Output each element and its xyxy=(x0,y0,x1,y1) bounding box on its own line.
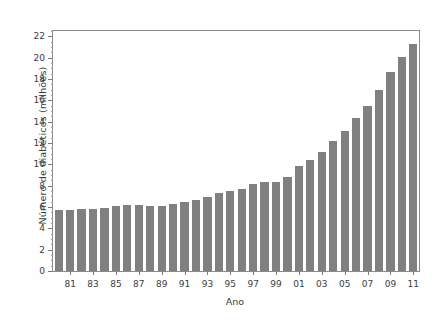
y-axis-minor-tick xyxy=(51,154,54,155)
bar xyxy=(295,166,303,271)
y-axis-minor-tick xyxy=(51,90,54,91)
y-axis-tick-label: 10 xyxy=(34,159,45,169)
bar xyxy=(341,131,349,271)
bar xyxy=(180,202,188,271)
y-axis-minor-tick xyxy=(51,74,54,75)
y-axis-minor-tick xyxy=(51,218,54,219)
y-axis-tick-label: 16 xyxy=(34,95,45,105)
x-axis-tick xyxy=(368,271,369,275)
y-axis-minor-tick xyxy=(51,111,54,112)
y-axis-minor-tick xyxy=(51,266,54,267)
x-axis-tick-label: 07 xyxy=(362,279,373,289)
x-axis-tick xyxy=(207,271,208,275)
bar xyxy=(100,208,108,271)
y-axis-tick-label: 20 xyxy=(34,53,45,63)
x-axis-tick-label: 81 xyxy=(64,279,75,289)
y-axis-tick-label: 8 xyxy=(39,181,45,191)
bar xyxy=(123,205,131,271)
y-axis-minor-tick xyxy=(51,175,54,176)
y-axis-tick-label: 18 xyxy=(34,74,45,84)
bar xyxy=(135,205,143,271)
x-axis-tick xyxy=(276,271,277,275)
x-axis-tick xyxy=(230,271,231,275)
x-axis-tick xyxy=(70,271,71,275)
bar xyxy=(249,184,257,271)
bar xyxy=(203,197,211,271)
x-axis-tick xyxy=(93,271,94,275)
bar xyxy=(158,206,166,271)
bar xyxy=(352,118,360,271)
y-axis-minor-tick xyxy=(51,234,54,235)
y-axis-minor-tick xyxy=(51,132,54,133)
y-axis-minor-tick xyxy=(51,116,54,117)
x-axis-tick xyxy=(345,271,346,275)
bar xyxy=(215,193,223,271)
x-axis-tick-label: 09 xyxy=(385,279,396,289)
x-axis-tick xyxy=(139,271,140,275)
y-axis-minor-tick xyxy=(51,84,54,85)
y-axis-minor-tick xyxy=(51,138,54,139)
bar xyxy=(375,90,383,271)
chart-figure: Número de diabéticos (milhões) 024681012… xyxy=(0,0,440,322)
x-axis-tick-label: 03 xyxy=(316,279,327,289)
x-axis-tick xyxy=(116,271,117,275)
y-axis-minor-tick xyxy=(51,159,54,160)
y-axis-tick-label: 0 xyxy=(39,266,45,276)
x-axis-tick xyxy=(253,271,254,275)
x-axis-tick-label: 95 xyxy=(225,279,236,289)
y-axis-minor-tick xyxy=(51,47,54,48)
x-axis-tick xyxy=(413,271,414,275)
y-axis-minor-tick xyxy=(51,191,54,192)
x-axis-tick-label: 89 xyxy=(156,279,167,289)
y-axis-tick xyxy=(48,228,53,229)
y-axis-tick xyxy=(48,164,53,165)
x-axis-tick-label: 05 xyxy=(339,279,350,289)
bar xyxy=(89,209,97,271)
y-axis-minor-tick xyxy=(51,255,54,256)
y-axis-tick xyxy=(48,100,53,101)
y-axis-minor-tick xyxy=(51,244,54,245)
bar xyxy=(283,177,291,271)
y-axis-minor-tick xyxy=(51,63,54,64)
y-axis-tick xyxy=(48,271,53,272)
y-axis-tick-label: 14 xyxy=(34,117,45,127)
y-axis-tick xyxy=(48,186,53,187)
y-axis-minor-tick xyxy=(51,31,54,32)
x-axis-tick-label: 11 xyxy=(408,279,419,289)
x-axis-tick-label: 01 xyxy=(293,279,304,289)
y-axis-minor-tick xyxy=(51,106,54,107)
bar xyxy=(192,200,200,271)
y-axis-minor-tick xyxy=(51,223,54,224)
y-axis-tick xyxy=(48,122,53,123)
x-axis-title: Ano xyxy=(52,296,418,307)
y-axis-tick xyxy=(48,207,53,208)
x-axis-tick-label: 99 xyxy=(270,279,281,289)
bar xyxy=(363,106,371,271)
y-axis-tick-label: 4 xyxy=(39,223,45,233)
bar xyxy=(226,191,234,271)
bar xyxy=(77,209,85,271)
y-axis-minor-tick xyxy=(51,180,54,181)
bar xyxy=(329,141,337,271)
y-axis-tick-label: 22 xyxy=(34,31,45,41)
bar xyxy=(55,210,63,271)
y-axis-tick-label: 6 xyxy=(39,202,45,212)
x-axis-tick xyxy=(162,271,163,275)
bar xyxy=(306,160,314,271)
y-axis-minor-tick xyxy=(51,170,54,171)
x-axis-tick xyxy=(322,271,323,275)
bar xyxy=(272,182,280,271)
y-axis-minor-tick xyxy=(51,68,54,69)
x-axis-tick-label: 85 xyxy=(110,279,121,289)
x-axis-tick-label: 97 xyxy=(247,279,258,289)
y-axis-minor-tick xyxy=(51,196,54,197)
y-axis-minor-tick xyxy=(51,52,54,53)
bar xyxy=(260,182,268,271)
y-axis-tick xyxy=(48,36,53,37)
y-axis-minor-tick xyxy=(51,42,54,43)
y-axis-minor-tick xyxy=(51,239,54,240)
x-axis-tick-label: 87 xyxy=(133,279,144,289)
x-axis-tick xyxy=(185,271,186,275)
y-axis-minor-tick xyxy=(51,260,54,261)
y-axis-minor-tick xyxy=(51,202,54,203)
